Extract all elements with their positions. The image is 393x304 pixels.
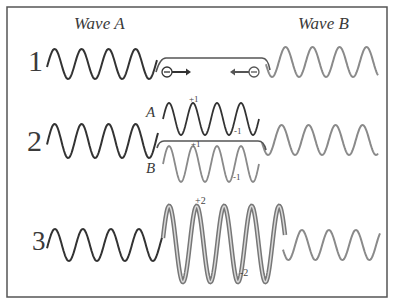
row-1-wave-b: [266, 47, 378, 77]
row-3-combined-wave: [163, 206, 285, 282]
arrow-right-icon: [172, 69, 191, 76]
wave-a-title: Wave A: [74, 14, 125, 34]
row-3-minus2: -2: [240, 268, 248, 277]
row-1-wave-a: [47, 49, 157, 79]
row-3-wave-b: [283, 230, 380, 260]
row-1-number: 1: [28, 46, 43, 76]
row-3-number: 3: [32, 226, 46, 256]
row-2-b-plus1: +1: [191, 140, 201, 149]
row-2-wave-b: [262, 125, 378, 155]
row-2-number: 2: [27, 126, 42, 156]
row-3-plus2: +2: [195, 196, 206, 205]
arrow-left-icon: [230, 69, 249, 76]
row-2-sub-wave-b: [163, 146, 259, 182]
wave-interference-diagram: Wave A Wave B 1 2 3 A B +1 -1 +1 -1 +2 -…: [0, 0, 393, 304]
wave-b-title: Wave B: [298, 14, 349, 34]
row-2-a-plus1: +1: [189, 95, 199, 104]
row-2-label-b: B: [146, 160, 155, 177]
row-2-a-minus1: -1: [234, 127, 242, 136]
row-3-wave-a: [47, 229, 163, 261]
charge-left-icon: [162, 67, 172, 77]
row-2-connector-line: [157, 141, 266, 150]
row-2-label-a: A: [146, 104, 155, 121]
charge-right-icon: [249, 67, 259, 77]
row-2-wave-a: [47, 124, 158, 158]
diagram-canvas: [0, 0, 393, 304]
row-2-b-minus1: -1: [233, 173, 241, 182]
row-2-sub-wave-a: [163, 103, 259, 135]
